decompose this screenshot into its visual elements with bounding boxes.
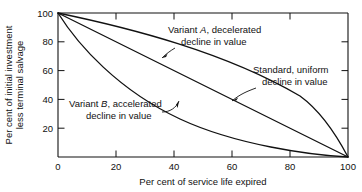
chart-figure: 0 20 40 60 80 100 100 80 60 40 20 Per ce… (0, 0, 362, 192)
x-axis-tick-labels: 0 20 40 60 80 100 (55, 161, 356, 172)
y-axis-title-line2: less terminal salvage (14, 41, 25, 130)
annot-a-italic: A (199, 24, 206, 35)
x-tick-label-20: 20 (111, 161, 122, 172)
annotation-variant-a-line2: decline in value (181, 36, 247, 47)
y-tick-label-60: 60 (42, 65, 53, 76)
y-axis-tick-labels: 100 80 60 40 20 (37, 8, 53, 134)
annotation-variant-b-line1: Variant B, accelerated (69, 98, 162, 109)
annotation-variant-b-line2: decline in value (86, 110, 152, 121)
x-tick-label-80: 80 (285, 161, 296, 172)
annotation-variant-a-line1: Variant A, decelerated (168, 24, 261, 35)
x-axis-title: Per cent of service life expired (139, 176, 266, 187)
y-tick-label-80: 80 (42, 36, 53, 47)
x-tick-label-40: 40 (169, 161, 180, 172)
x-tick-label-0: 0 (55, 161, 60, 172)
annotation-standard-line2: decline in value (262, 76, 328, 87)
annot-b-pre: Variant (69, 98, 101, 109)
x-tick-label-100: 100 (340, 161, 356, 172)
x-tick-label-60: 60 (227, 161, 238, 172)
chart-canvas: 0 20 40 60 80 100 100 80 60 40 20 Per ce… (0, 0, 362, 192)
y-tick-label-100: 100 (37, 8, 53, 19)
annot-a-post: , decelerated (206, 24, 261, 35)
y-axis-title: Per cent of initial investment less term… (3, 25, 25, 144)
y-axis-title-line1: Per cent of initial investment (3, 25, 14, 144)
annot-a-pre: Variant (168, 24, 200, 35)
annotation-standard-line1: Standard, uniform (253, 64, 329, 75)
y-tick-label-20: 20 (42, 123, 53, 134)
annot-b-post: , accelerated (107, 98, 161, 109)
y-tick-label-40: 40 (42, 94, 53, 105)
